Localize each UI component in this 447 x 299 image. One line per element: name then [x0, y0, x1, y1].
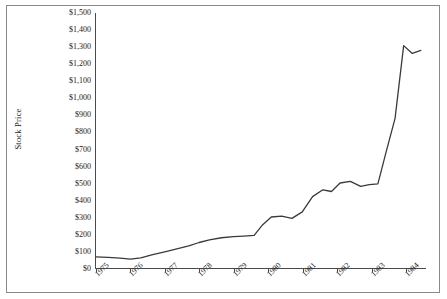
- chart-plot-wrapper: Stock Price $1,500$1,400$1,300$1,200$1,1…: [7, 6, 439, 292]
- y-tick-label: $1,000: [29, 94, 91, 102]
- y-tick-label: $1,200: [29, 60, 91, 68]
- y-tick-label: $0: [29, 265, 91, 273]
- y-axis-tick-labels: $1,500$1,400$1,300$1,200$1,100$1,000$900…: [29, 6, 91, 292]
- y-tick-label: $300: [29, 214, 91, 222]
- y-tick-label: $1,300: [29, 43, 91, 51]
- y-tick-label: $100: [29, 248, 91, 256]
- y-tick-label: $700: [29, 146, 91, 154]
- y-tick-label: $1,400: [29, 26, 91, 34]
- y-axis-title: Stock Price: [13, 94, 23, 164]
- y-tick-label: $900: [29, 111, 91, 119]
- x-axis-tick-labels: 1975197619771978197919801981198219831984: [95, 270, 426, 299]
- y-tick-label: $500: [29, 180, 91, 188]
- y-tick-label: $600: [29, 163, 91, 171]
- line-series-svg: [96, 13, 426, 268]
- y-tick-label: $1,100: [29, 77, 91, 85]
- y-tick-label: $200: [29, 231, 91, 239]
- y-tick-label: $800: [29, 128, 91, 136]
- chart-outer-frame: Stock Price $1,500$1,400$1,300$1,200$1,1…: [6, 5, 440, 293]
- stock-price-line: [96, 46, 421, 260]
- plot-area: [95, 13, 426, 269]
- y-tick-label: $400: [29, 197, 91, 205]
- y-tick-label: $1,500: [29, 9, 91, 17]
